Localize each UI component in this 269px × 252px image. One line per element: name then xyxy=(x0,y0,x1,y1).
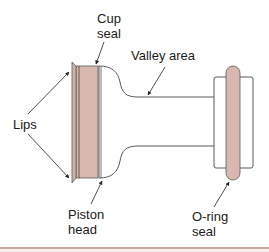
o-ring-seal-label: O-ring seal xyxy=(192,209,228,239)
lips-top-arrow xyxy=(28,72,69,114)
valley-area-label: Valley area xyxy=(131,48,195,63)
o-ring xyxy=(226,66,240,180)
o-ring-seal-label-line1: O-ring xyxy=(192,209,228,224)
valley-area-label-text: Valley area xyxy=(131,48,195,63)
o-ring-seal-label-line2: seal xyxy=(192,224,228,239)
cup-seal-arrow xyxy=(96,42,104,64)
piston-seal-diagram: Cup seal Valley area Lips Piston head O-… xyxy=(0,0,269,252)
valley-area-arrow xyxy=(148,67,165,95)
cup-seal-label-line2: seal xyxy=(96,26,122,41)
lips-label: Lips xyxy=(13,117,37,132)
lips-flange xyxy=(72,62,76,183)
piston-head-label-line2: head xyxy=(68,222,104,237)
piston-body xyxy=(99,66,215,178)
cup-seal-label: Cup seal xyxy=(96,11,122,41)
piston-head-arrow xyxy=(91,181,102,204)
o-ring-arrow xyxy=(214,182,229,207)
cup-seal-label-line1: Cup xyxy=(96,11,122,26)
lips-bottom-arrow xyxy=(28,134,69,178)
cup-seal xyxy=(76,66,98,178)
piston-head-label: Piston head xyxy=(68,207,104,237)
piston-head-label-line1: Piston xyxy=(68,207,104,222)
lips-label-text: Lips xyxy=(13,117,37,132)
